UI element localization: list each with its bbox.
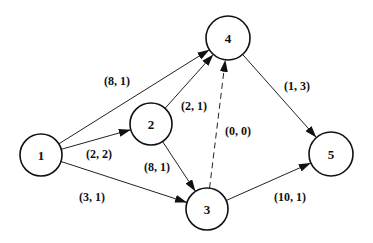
node-label: 5 bbox=[328, 147, 335, 162]
node-2: 2 bbox=[130, 103, 172, 145]
edge-label-1-3: (3, 1) bbox=[79, 190, 105, 204]
node-label: 3 bbox=[204, 202, 211, 217]
edge-label-1-2: (2, 2) bbox=[86, 147, 112, 161]
edges-layer bbox=[59, 50, 317, 203]
edge-label-1-4: (8, 1) bbox=[104, 74, 130, 88]
node-label: 1 bbox=[38, 148, 45, 163]
arrow-icon bbox=[243, 54, 317, 137]
edge-label-4-5: (1, 3) bbox=[284, 79, 310, 93]
edge-label-3-4: (0, 0) bbox=[225, 124, 251, 138]
node-label: 4 bbox=[225, 31, 232, 46]
edge-label-3-5: (10, 1) bbox=[274, 190, 306, 204]
edge-label-2-3: (8, 1) bbox=[144, 160, 170, 174]
node-3: 3 bbox=[186, 188, 228, 230]
node-label: 2 bbox=[148, 117, 155, 132]
edge-3-4 bbox=[210, 60, 226, 188]
arrow-icon bbox=[210, 60, 226, 188]
edge-label-2-4: (2, 1) bbox=[181, 99, 207, 113]
edge-labels-layer: (8, 1)(2, 2)(3, 1)(2, 1)(8, 1)(0, 0)(1, … bbox=[79, 74, 310, 204]
network-diagram: (8, 1)(2, 2)(3, 1)(2, 1)(8, 1)(0, 0)(1, … bbox=[0, 0, 373, 243]
node-1: 1 bbox=[20, 134, 62, 176]
node-4: 4 bbox=[206, 16, 250, 60]
node-5: 5 bbox=[309, 132, 353, 176]
edge-4-5 bbox=[243, 54, 317, 137]
